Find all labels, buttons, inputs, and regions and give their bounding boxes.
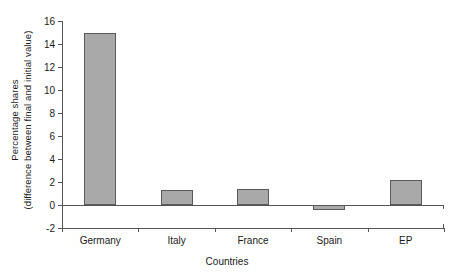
- y-axis-tick: 2: [58, 182, 62, 183]
- x-axis-tick: [62, 228, 63, 232]
- x-axis-category-label: Italy: [138, 236, 214, 246]
- y-axis-tick-label: 6: [49, 132, 55, 142]
- y-axis-tick-label: 16: [44, 17, 55, 27]
- y-axis-spine: [62, 21, 63, 228]
- y-axis-tick-label: 2: [49, 178, 55, 188]
- y-axis-title-line1: Percentage shares: [8, 30, 21, 209]
- y-axis-tick-label: -2: [46, 224, 55, 234]
- x-axis-tick: [444, 228, 445, 232]
- y-axis-tick-label: 0: [49, 201, 55, 211]
- bar-chart: Percentage shares (difference between fi…: [0, 0, 454, 277]
- zero-baseline: [62, 205, 444, 206]
- plot-area: 1614121086420-2: [62, 21, 444, 228]
- y-axis-title-line2: (difference between final and initial va…: [21, 30, 34, 209]
- y-axis-tick-label: 4: [49, 155, 55, 165]
- bar-germany[interactable]: [84, 33, 116, 206]
- y-axis-tick: 14: [58, 44, 62, 45]
- y-axis-tick: 10: [58, 90, 62, 91]
- x-axis-tick: [215, 228, 216, 232]
- y-axis-tick-label: 8: [49, 109, 55, 119]
- bar-italy[interactable]: [161, 190, 193, 205]
- x-axis-category-label: Spain: [291, 236, 367, 246]
- bar-ep[interactable]: [390, 180, 422, 205]
- y-axis-tick: 4: [58, 159, 62, 160]
- x-axis-title: Countries: [0, 257, 454, 267]
- y-axis-tick-label: 14: [44, 40, 55, 50]
- y-axis-tick-label: 10: [44, 86, 55, 96]
- y-axis-tick: 16: [58, 21, 62, 22]
- y-axis-tick: 6: [58, 136, 62, 137]
- x-axis-category-label: France: [215, 236, 291, 246]
- bar-spain[interactable]: [313, 205, 345, 210]
- y-axis-tick: 12: [58, 67, 62, 68]
- x-axis-tick: [291, 228, 292, 232]
- bar-france[interactable]: [237, 189, 269, 205]
- y-axis-title: Percentage shares (difference between fi…: [0, 0, 42, 240]
- x-axis-tick: [368, 228, 369, 232]
- y-axis-tick-label: 12: [44, 63, 55, 73]
- x-axis-line: [62, 228, 444, 229]
- y-axis-tick: 8: [58, 113, 62, 114]
- x-axis-category-label: EP: [368, 236, 444, 246]
- x-axis-tick: [138, 228, 139, 232]
- x-axis-category-label: Germany: [62, 236, 138, 246]
